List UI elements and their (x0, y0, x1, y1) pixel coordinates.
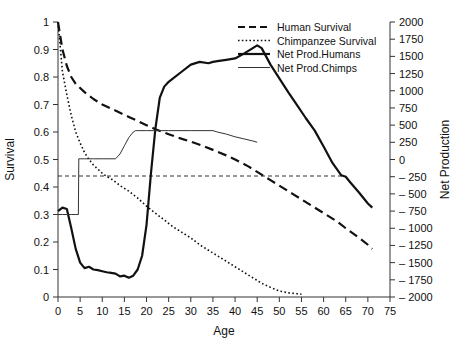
y2-tick-label: – 1250 (399, 239, 433, 251)
x-tick-label: 30 (185, 305, 197, 317)
y2-tick-label: 1750 (399, 33, 423, 45)
y2-axis-title: Net Production (438, 120, 452, 199)
x-tick-label: 55 (295, 305, 307, 317)
y-axis-title: Survival (3, 138, 17, 181)
x-tick-label: 65 (340, 305, 352, 317)
x-tick-label: 45 (251, 305, 263, 317)
y2-tick-label: – 250 (399, 171, 427, 183)
x-tick-label: 20 (140, 305, 152, 317)
x-tick-label: 60 (317, 305, 329, 317)
y-tick-label: 1 (43, 16, 49, 28)
x-tick-label: 70 (362, 305, 374, 317)
y2-tick-label: 1000 (399, 85, 423, 97)
y-axis-left-ticks: 00.10.20.30.40.50.60.70.80.91 (34, 16, 58, 303)
y-tick-label: 0.7 (34, 99, 49, 111)
y2-tick-label: – 500 (399, 188, 427, 200)
x-tick-label: 35 (207, 305, 219, 317)
y-axis-right-ticks: – 2000– 1750– 1500– 1250– 1000– 750– 500… (390, 16, 433, 303)
y2-tick-label: – 750 (399, 205, 427, 217)
series-line-1 (58, 22, 301, 294)
y2-tick-label: 0 (399, 154, 405, 166)
legend-label-1: Chimpanzee Survival (277, 35, 376, 47)
y2-tick-label: 250 (399, 136, 417, 148)
y2-tick-label: 500 (399, 119, 417, 131)
y-tick-label: 0.3 (34, 209, 49, 221)
x-tick-label: 40 (229, 305, 241, 317)
y-tick-label: 0.4 (34, 181, 49, 193)
y2-tick-label: – 2000 (399, 291, 433, 303)
series-line-3 (58, 131, 257, 215)
y2-tick-label: 1500 (399, 50, 423, 62)
x-tick-label: 5 (77, 305, 83, 317)
y2-tick-label: 1250 (399, 68, 423, 80)
legend-label-3: Net Prod.Chimps (277, 62, 357, 74)
y-tick-label: 0.8 (34, 71, 49, 83)
x-tick-label: 25 (163, 305, 175, 317)
y2-tick-label: 750 (399, 102, 417, 114)
x-tick-label: 50 (273, 305, 285, 317)
y-tick-label: 0 (43, 291, 49, 303)
y-tick-label: 0.9 (34, 44, 49, 56)
y-tick-label: 0.5 (34, 154, 49, 166)
y-tick-label: 0.6 (34, 126, 49, 138)
y2-tick-label: – 1000 (399, 222, 433, 234)
x-axis-ticks: 051015202530354045505560657075 (55, 297, 396, 317)
y-tick-label: 0.2 (34, 236, 49, 248)
legend-label-0: Human Survival (277, 21, 351, 33)
x-tick-label: 75 (384, 305, 396, 317)
y-tick-label: 0.1 (34, 264, 49, 276)
x-tick-label: 15 (118, 305, 130, 317)
x-tick-label: 10 (96, 305, 108, 317)
x-tick-label: 0 (55, 305, 61, 317)
survival-net-production-chart: 051015202530354045505560657075 00.10.20.… (0, 0, 460, 344)
x-axis-title: Age (213, 324, 235, 338)
chart-container: 051015202530354045505560657075 00.10.20.… (0, 0, 460, 344)
y2-tick-label: – 1750 (399, 274, 433, 286)
legend-label-2: Net Prod.Humans (277, 48, 360, 60)
series-line-2 (58, 45, 372, 277)
y2-tick-label: – 1500 (399, 257, 433, 269)
y2-tick-label: 2000 (399, 16, 423, 28)
